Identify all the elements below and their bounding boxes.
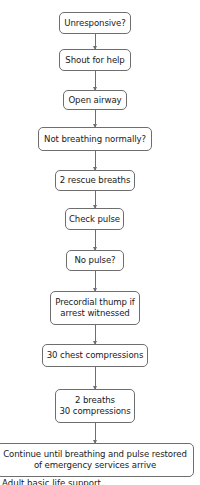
arrow-connector	[95, 151, 96, 170]
arrow-connector	[95, 34, 96, 49]
node-label-line-1: 2 breaths	[75, 395, 115, 406]
arrow-connector	[95, 230, 96, 250]
node-precordial-thump: Precordial thump if arrest witnessed	[50, 291, 140, 325]
arrow-connector	[95, 71, 96, 90]
node-label: Shout for help	[65, 55, 124, 66]
node-30-chest-compressions: 30 chest compressions	[42, 344, 148, 367]
node-label: Unresponsive?	[64, 18, 126, 29]
node-label: Open airway	[68, 95, 121, 106]
node-label-line-2: 30 compressions	[59, 406, 130, 417]
arrow-connector	[95, 110, 96, 127]
bls-flowchart: Unresponsive? Shout for help Open airway…	[0, 0, 200, 485]
arrow-connector	[95, 367, 96, 389]
node-no-pulse: No pulse?	[66, 250, 124, 271]
arrow-connector	[95, 191, 96, 208]
node-label: No pulse?	[74, 255, 115, 266]
node-2-rescue-breaths: 2 rescue breaths	[55, 170, 135, 191]
node-unresponsive: Unresponsive?	[59, 12, 131, 34]
node-2-breaths-30-compressions: 2 breaths 30 compressions	[55, 389, 135, 423]
node-not-breathing-normally: Not breathing normally?	[38, 127, 152, 151]
node-label: Check pulse	[69, 214, 120, 225]
node-check-pulse: Check pulse	[65, 208, 124, 230]
node-label-line-2: arrest witnessed	[60, 308, 129, 319]
arrow-connector	[95, 325, 96, 344]
node-continue-until-restored: Continue until breathing and pulse resto…	[0, 443, 194, 477]
node-open-airway: Open airway	[63, 90, 127, 110]
figure-caption-cut: Adult basic life support	[2, 478, 101, 485]
node-label-line-2: of emergency services arrive	[34, 460, 156, 471]
node-label: 30 chest compressions	[47, 350, 144, 361]
node-label: 2 rescue breaths	[60, 175, 131, 186]
node-label-line-1: Precordial thump if	[55, 297, 135, 308]
node-shout-for-help: Shout for help	[59, 49, 131, 71]
node-label-line-1: Continue until breathing and pulse resto…	[3, 449, 187, 460]
arrow-connector	[95, 271, 96, 291]
arrow-connector	[95, 423, 96, 443]
node-label: Not breathing normally?	[44, 134, 146, 145]
